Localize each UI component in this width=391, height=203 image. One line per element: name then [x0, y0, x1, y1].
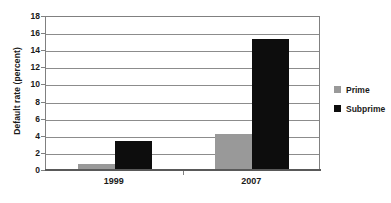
legend-item-subprime[interactable]: Subprime — [334, 99, 391, 118]
y-axis-tick-label: 2 — [10, 148, 40, 158]
y-axis-tick-label: 18 — [10, 11, 40, 21]
y-axis-tick-label: 16 — [10, 28, 40, 38]
x-axis-tick-mark — [183, 171, 184, 175]
legend-swatch-icon — [334, 86, 341, 93]
y-axis-tick-mark — [41, 170, 45, 171]
legend-swatch-icon — [334, 105, 341, 112]
y-axis-tick-mark — [41, 50, 45, 51]
y-axis-tick-label: 12 — [10, 62, 40, 72]
y-axis-tick-mark — [41, 136, 45, 137]
bar-subprime-2007 — [252, 39, 289, 169]
y-axis-tick-mark — [41, 84, 45, 85]
y-axis-tick-label: 0 — [10, 165, 40, 175]
y-axis-tick-label: 10 — [10, 79, 40, 89]
legend: PrimeSubprime — [334, 80, 391, 118]
bars-layer — [46, 17, 319, 169]
y-axis-tick-label: 6 — [10, 114, 40, 124]
legend-item-prime[interactable]: Prime — [334, 80, 391, 99]
y-axis-tick-mark — [41, 153, 45, 154]
legend-label: Prime — [346, 85, 370, 95]
y-axis-tick-label: 14 — [10, 45, 40, 55]
y-axis-tick-mark — [41, 33, 45, 34]
y-axis-tick-mark — [41, 16, 45, 17]
y-axis-tick-label: 8 — [10, 97, 40, 107]
x-axis-tick-label: 1999 — [104, 176, 124, 186]
bar-subprime-1999 — [115, 141, 152, 169]
y-axis-tick-mark — [41, 102, 45, 103]
bar-prime-2007 — [215, 134, 252, 169]
plot-area — [45, 16, 320, 170]
y-axis-tick-mark — [41, 67, 45, 68]
legend-label: Subprime — [346, 104, 385, 114]
y-axis-tick-mark — [41, 119, 45, 120]
y-axis-tick-labels: 024681012141618 — [10, 10, 40, 176]
x-axis-tick-label: 2007 — [241, 176, 261, 186]
y-axis-tick-label: 4 — [10, 131, 40, 141]
bar-chart: Default rate (percent) 024681012141618 1… — [0, 0, 391, 203]
